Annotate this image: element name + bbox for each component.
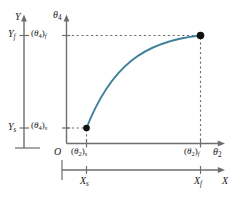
origin-label: O	[54, 147, 61, 157]
theta4-vs-theta2-curve	[87, 36, 201, 129]
y-scale-arrow-icon	[21, 15, 27, 22]
y-start-tick-label: Ys	[8, 122, 16, 134]
theta2-finish-tick-label: (θ2)f	[184, 147, 199, 157]
theta2-axis-label: θ2	[213, 147, 222, 159]
y-axis-label: Y	[15, 12, 21, 22]
theta4-finish-tick-label: (θ4)f	[31, 29, 46, 39]
start-point-marker	[83, 125, 90, 132]
kinematics-figure: Y Yf Ys θ4 (θ4)f (θ4)s O (θ2)s (θ2)f θ2 …	[0, 0, 238, 206]
x-start-tick-label: Xs	[80, 176, 89, 188]
y-finish-tick-label: Yf	[8, 29, 16, 41]
finish-point-marker	[197, 32, 205, 40]
theta2-axis	[67, 140, 226, 148]
theta2-start-tick-label: (θ2)s	[71, 147, 87, 157]
x-finish-tick-label: Xf	[194, 176, 202, 188]
x-axis-label: X	[222, 176, 228, 186]
theta4-axis	[62, 15, 70, 144]
theta4-start-tick-label: (θ4)s	[31, 121, 47, 131]
theta4-arrow-icon	[64, 15, 70, 22]
theta4-axis-label: θ4	[53, 10, 62, 22]
x-scale-arrow-icon	[218, 167, 225, 173]
theta2-arrow-icon	[218, 141, 225, 147]
